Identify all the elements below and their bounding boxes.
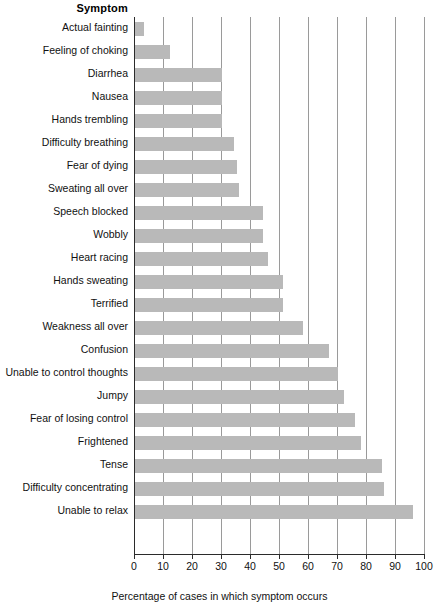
- tick-label: 50: [264, 560, 294, 572]
- bar-row: Terrified: [0, 293, 439, 316]
- tick-label: 100: [409, 560, 439, 572]
- bar-row: Speech blocked: [0, 201, 439, 224]
- bar-category-label: Diarrhea: [0, 63, 128, 86]
- bar: [135, 367, 338, 381]
- bar: [135, 252, 268, 266]
- bar: [135, 505, 413, 519]
- bar: [135, 183, 239, 197]
- tick-mark: [424, 555, 425, 559]
- bar-row: Diarrhea: [0, 63, 439, 86]
- bar-category-label: Feeling of choking: [0, 40, 128, 63]
- bar: [135, 321, 303, 335]
- bar-row: Nausea: [0, 86, 439, 109]
- bar: [135, 160, 237, 174]
- tick-label: 80: [351, 560, 381, 572]
- bar: [135, 298, 283, 312]
- bar-row: Difficulty concentrating: [0, 477, 439, 500]
- bar: [135, 275, 283, 289]
- bar-row: Difficulty breathing: [0, 132, 439, 155]
- bar-category-label: Difficulty concentrating: [0, 477, 128, 500]
- tick-mark: [366, 555, 367, 559]
- tick-label: 0: [119, 560, 149, 572]
- bar-row: Unable to control thoughts: [0, 362, 439, 385]
- bar: [135, 68, 222, 82]
- bar-category-label: Speech blocked: [0, 201, 128, 224]
- bar-row: Wobbly: [0, 224, 439, 247]
- bar-category-label: Terrified: [0, 293, 128, 316]
- bar-category-label: Weakness all over: [0, 316, 128, 339]
- bar-category-label: Sweating all over: [0, 178, 128, 201]
- tick-label: 30: [206, 560, 236, 572]
- bar-rows: Actual faintingFeeling of chokingDiarrhe…: [0, 17, 439, 523]
- bar: [135, 229, 263, 243]
- tick-mark: [395, 555, 396, 559]
- bar: [135, 114, 222, 128]
- tick-mark: [134, 555, 135, 559]
- bar-row: Frightened: [0, 431, 439, 454]
- bar-category-label: Fear of losing control: [0, 408, 128, 431]
- tick-label: 10: [148, 560, 178, 572]
- bar-row: Confusion: [0, 339, 439, 362]
- bar-category-label: Actual fainting: [0, 17, 128, 40]
- bar-category-label: Heart racing: [0, 247, 128, 270]
- tick-label: 20: [177, 560, 207, 572]
- bar-category-label: Confusion: [0, 339, 128, 362]
- bar-category-label: Frightened: [0, 431, 128, 454]
- tick-mark: [250, 555, 251, 559]
- bar: [135, 91, 222, 105]
- category-column-header: Symptom: [0, 1, 128, 15]
- bar-row: Jumpy: [0, 385, 439, 408]
- tick-mark: [192, 555, 193, 559]
- bar-category-label: Fear of dying: [0, 155, 128, 178]
- tick-label: 40: [235, 560, 265, 572]
- bar: [135, 344, 329, 358]
- bar-row: Heart racing: [0, 247, 439, 270]
- bar-row: Weakness all over: [0, 316, 439, 339]
- bar: [135, 413, 355, 427]
- bar-row: Actual fainting: [0, 17, 439, 40]
- tick-mark: [163, 555, 164, 559]
- bar-row: Hands sweating: [0, 270, 439, 293]
- bar-row: Feeling of choking: [0, 40, 439, 63]
- bar-category-label: Unable to relax: [0, 500, 128, 523]
- bar-category-label: Difficulty breathing: [0, 132, 128, 155]
- bar-category-label: Hands sweating: [0, 270, 128, 293]
- bar: [135, 390, 344, 404]
- bar-row: Fear of dying: [0, 155, 439, 178]
- tick-label: 60: [293, 560, 323, 572]
- bar-category-label: Tense: [0, 454, 128, 477]
- bar: [135, 45, 170, 59]
- bar: [135, 22, 144, 36]
- x-axis-title: Percentage of cases in which symptom occ…: [0, 590, 439, 602]
- bar-category-label: Unable to control thoughts: [0, 362, 128, 385]
- bar-category-label: Wobbly: [0, 224, 128, 247]
- bar: [135, 137, 234, 151]
- bar: [135, 206, 263, 220]
- bar-category-label: Hands trembling: [0, 109, 128, 132]
- tick-mark: [279, 555, 280, 559]
- tick-mark: [221, 555, 222, 559]
- bar-row: Fear of losing control: [0, 408, 439, 431]
- bar-row: Tense: [0, 454, 439, 477]
- horizontal-bar-chart: Symptom Actual faintingFeeling of chokin…: [0, 0, 439, 616]
- bar: [135, 436, 361, 450]
- tick-mark: [308, 555, 309, 559]
- bar-category-label: Nausea: [0, 86, 128, 109]
- bar-category-label: Jumpy: [0, 385, 128, 408]
- bar: [135, 459, 382, 473]
- x-axis-ticks: 0102030405060708090100: [0, 555, 439, 575]
- bar-row: Hands trembling: [0, 109, 439, 132]
- tick-label: 70: [322, 560, 352, 572]
- tick-label: 90: [380, 560, 410, 572]
- tick-mark: [337, 555, 338, 559]
- bar: [135, 482, 384, 496]
- bar-row: Sweating all over: [0, 178, 439, 201]
- bar-row: Unable to relax: [0, 500, 439, 523]
